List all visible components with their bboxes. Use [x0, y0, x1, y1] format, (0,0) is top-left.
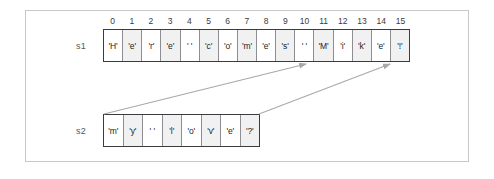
index-label: 1 [122, 15, 141, 27]
array-cell: 's' [276, 30, 295, 61]
array-cell: '!' [391, 30, 409, 61]
index-label: 7 [237, 15, 256, 27]
array-cell: 'y' [124, 115, 144, 146]
array-cell: ' ' [143, 115, 163, 146]
array-cell: 'v' [202, 115, 222, 146]
index-label: 5 [199, 15, 218, 27]
array-cell: 'M' [314, 30, 333, 61]
index-label: 2 [141, 15, 160, 27]
array-cell: 'e' [372, 30, 391, 61]
array-cell: 'k' [353, 30, 372, 61]
array-cell: 'e' [257, 30, 276, 61]
string-index-diagram: 0 1 2 3 4 5 6 7 8 9 10 11 12 13 14 15 s1… [0, 0, 494, 179]
array-cell: '?' [241, 115, 260, 146]
array-cell: 'e' [123, 30, 142, 61]
index-label: 13 [352, 15, 371, 27]
index-label: 4 [180, 15, 199, 27]
array-cell: 'i' [334, 30, 353, 61]
array-label-s2: s2 [76, 126, 86, 136]
index-label: 10 [295, 15, 314, 27]
array-s2: 'm' 'y' ' ' 'l' 'o' 'v' 'e' '?' [103, 114, 260, 147]
index-label: 15 [391, 15, 410, 27]
index-label: 6 [218, 15, 237, 27]
array-cell: 'o' [182, 115, 202, 146]
index-label: 14 [372, 15, 391, 27]
array-s1: 'H' 'e' 'r' 'e' ' ' 'c' 'o' 'm' 'e' 's' … [103, 29, 410, 62]
index-ruler: 0 1 2 3 4 5 6 7 8 9 10 11 12 13 14 15 [103, 15, 410, 27]
array-cell: 'l' [163, 115, 183, 146]
array-cell: 'e' [161, 30, 180, 61]
index-label: 3 [161, 15, 180, 27]
index-label: 12 [333, 15, 352, 27]
index-label: 8 [257, 15, 276, 27]
array-cell: 'm' [238, 30, 257, 61]
array-cell: 'H' [104, 30, 123, 61]
array-cell: ' ' [181, 30, 200, 61]
array-cell: 'e' [221, 115, 241, 146]
array-cell: 'm' [104, 115, 124, 146]
array-cell: 'c' [200, 30, 219, 61]
array-label-s1: s1 [76, 41, 86, 51]
index-label: 0 [103, 15, 122, 27]
array-cell: ' ' [295, 30, 314, 61]
array-cell: 'o' [219, 30, 238, 61]
array-cell: 'r' [142, 30, 161, 61]
index-label: 11 [314, 15, 333, 27]
index-label: 9 [276, 15, 295, 27]
